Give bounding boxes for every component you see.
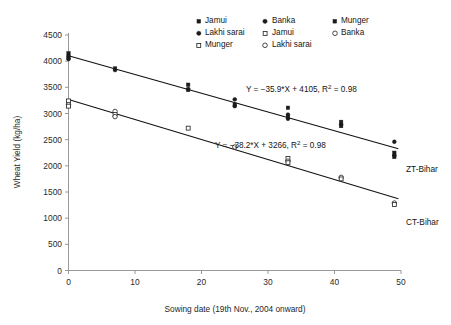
- data-point: [392, 203, 396, 207]
- legend-label-1: Banka: [272, 16, 296, 25]
- legend-marker-banka-zt: [263, 19, 267, 23]
- legend-label-3: Lakhi sarai: [205, 28, 245, 37]
- y-axis-title: Wheat Yield (kg/ha): [12, 116, 22, 189]
- legend-marker-jamui-ct: [263, 32, 267, 36]
- x-tick-label-20: 20: [197, 277, 207, 287]
- y-tick-label-500: 500: [48, 239, 62, 249]
- data-point: [67, 57, 71, 61]
- series-label-zt-bihar: ZT-Bihar: [406, 164, 438, 174]
- data-point: [187, 88, 190, 91]
- data-point: [113, 68, 117, 72]
- trend-line-zt-bihar: [69, 56, 399, 149]
- data-point: [187, 83, 190, 86]
- y-tick-label-4000: 4000: [43, 56, 62, 66]
- y-tick-label-4500: 4500: [43, 30, 62, 40]
- y-tick-label-2500: 2500: [43, 135, 62, 145]
- x-tick-label-30: 30: [263, 277, 273, 287]
- chart-legend: Jamui Banka Munger Lakhi sarai Jamui Ban…: [197, 16, 369, 49]
- trend-lines: [69, 56, 399, 199]
- chart-svg: Jamui Banka Munger Lakhi sarai Jamui Ban…: [0, 0, 451, 325]
- legend-marker-munger-zt: [333, 20, 337, 24]
- data-point: [233, 97, 237, 101]
- data-point: [67, 104, 71, 108]
- legend-marker-munger-ct: [197, 44, 201, 48]
- chart-axes: [69, 33, 402, 271]
- data-point: [339, 177, 343, 181]
- data-point: [392, 140, 396, 144]
- regression-equation-ct-bihar: Y = −38.2*X + 3266, R2 = 0.98: [215, 139, 326, 150]
- data-point: [286, 106, 289, 109]
- legend-label-4: Jamui: [272, 28, 294, 37]
- y-tick-label-2000: 2000: [43, 161, 62, 171]
- legend-marker-jamui-zt: [197, 20, 201, 24]
- legend-label-5: Banka: [341, 28, 365, 37]
- y-tick-label-1000: 1000: [43, 213, 62, 223]
- y-tick-label-1500: 1500: [43, 187, 62, 197]
- x-tick-label-10: 10: [130, 277, 140, 287]
- data-point: [286, 117, 290, 121]
- y-axis-ticks: 050010001500200025003000350040004500: [43, 30, 68, 276]
- regression-equation-zt-bihar: Y = −35.9*X + 4105, R2 = 0.98: [246, 83, 357, 94]
- legend-marker-lakhisarai-ct: [263, 43, 268, 48]
- wheat-yield-scatter-chart: Jamui Banka Munger Lakhi sarai Jamui Ban…: [0, 0, 451, 325]
- data-point: [113, 114, 117, 118]
- series-label-ct-bihar: CT-Bihar: [406, 217, 439, 227]
- y-tick-label-0: 0: [57, 266, 62, 276]
- x-axis-title: Sowing date (19th Nov., 2004 onward): [165, 304, 306, 314]
- x-tick-label-40: 40: [330, 277, 340, 287]
- x-tick-label-0: 0: [66, 277, 71, 287]
- x-tick-label-50: 50: [396, 277, 406, 287]
- x-axis-ticks: 01020304050: [66, 271, 406, 287]
- legend-label-2: Munger: [341, 16, 369, 25]
- data-point: [339, 124, 342, 127]
- legend-label-7: Lakhi sarai: [272, 40, 312, 49]
- legend-marker-banka-ct: [333, 31, 338, 36]
- y-tick-label-3500: 3500: [43, 82, 62, 92]
- data-point: [393, 155, 396, 158]
- legend-label-6: Munger: [205, 40, 233, 49]
- legend-label-0: Jamui: [205, 16, 227, 25]
- data-point: [233, 104, 237, 108]
- y-tick-label-3000: 3000: [43, 109, 62, 119]
- data-point: [186, 126, 190, 130]
- data-points-ct-bihar: [66, 99, 396, 207]
- legend-marker-lakhisarai-zt: [197, 31, 201, 35]
- data-point: [286, 161, 290, 165]
